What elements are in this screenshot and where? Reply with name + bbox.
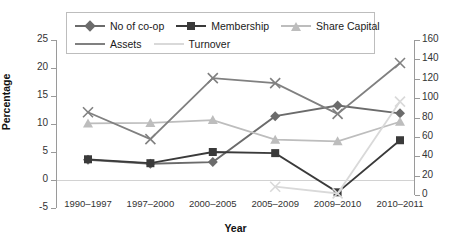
legend-label-assets: Assets <box>110 38 142 50</box>
x-marker-icon <box>86 40 94 48</box>
x-data-point <box>83 107 93 117</box>
series-assets <box>83 58 405 144</box>
series-line <box>88 63 400 139</box>
legend-row-2: Assets Turnover <box>75 35 368 53</box>
legend-marker-diamond-icon <box>75 20 105 32</box>
x-data-point <box>395 58 405 68</box>
chart-legend: No of co-op Membership Share Capital <box>66 12 375 54</box>
legend-marker-x-icon <box>75 38 105 50</box>
diamond-marker-icon <box>84 20 95 31</box>
triangle-marker-icon <box>291 22 301 31</box>
series-line <box>275 102 400 194</box>
legend-item-assets[interactable]: Assets <box>75 38 142 50</box>
x-data-point <box>395 97 405 107</box>
square-data-point <box>271 149 279 157</box>
legend-label-turnover: Turnover <box>189 38 231 50</box>
legend-marker-square-icon <box>176 20 206 32</box>
x-data-point <box>145 134 155 144</box>
legend-label-membership: Membership <box>211 20 269 32</box>
square-data-point <box>146 159 154 167</box>
square-data-point <box>84 155 92 163</box>
triangle-data-point <box>395 117 405 126</box>
legend-label-no-of-co-op: No of co-op <box>110 20 164 32</box>
legend-label-share-capital: Share Capital <box>316 20 380 32</box>
series-line <box>88 106 400 164</box>
legend-item-share-capital[interactable]: Share Capital <box>281 20 380 32</box>
legend-marker-x-light-icon <box>154 38 184 50</box>
legend-item-membership[interactable]: Membership <box>176 20 269 32</box>
square-data-point <box>209 148 217 156</box>
legend-item-turnover[interactable]: Turnover <box>154 38 231 50</box>
legend-item-no-of-co-op[interactable]: No of co-op <box>75 20 164 32</box>
chart-container: No of co-op Membership Share Capital <box>0 0 471 241</box>
square-marker-icon <box>187 22 195 30</box>
diamond-data-point <box>333 101 343 111</box>
x-marker-icon <box>165 40 173 48</box>
legend-row-1: No of co-op Membership Share Capital <box>75 17 368 35</box>
series-line <box>88 140 400 192</box>
square-data-point <box>396 136 404 144</box>
legend-marker-triangle-icon <box>281 20 311 32</box>
